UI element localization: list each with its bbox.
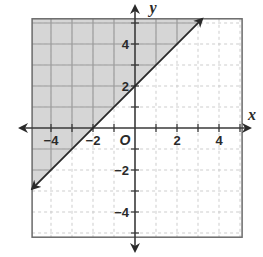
x-tick-label: −4 — [44, 133, 60, 148]
y-tick-label: 2 — [122, 79, 129, 94]
x-tick-label: 2 — [173, 133, 180, 148]
origin-label: O — [120, 132, 131, 148]
coordinate-plane: −4−224−4−224Oxy — [0, 0, 263, 257]
y-axis-label: y — [147, 0, 157, 17]
y-tick-label: 4 — [122, 37, 130, 52]
plot-area: −4−224−4−224Oxy — [20, 0, 256, 251]
x-axis-label: x — [247, 106, 256, 123]
y-tick-label: −2 — [114, 163, 129, 178]
x-tick-label: 4 — [215, 133, 223, 148]
y-tick-label: −4 — [114, 205, 130, 220]
x-tick-label: −2 — [86, 133, 101, 148]
